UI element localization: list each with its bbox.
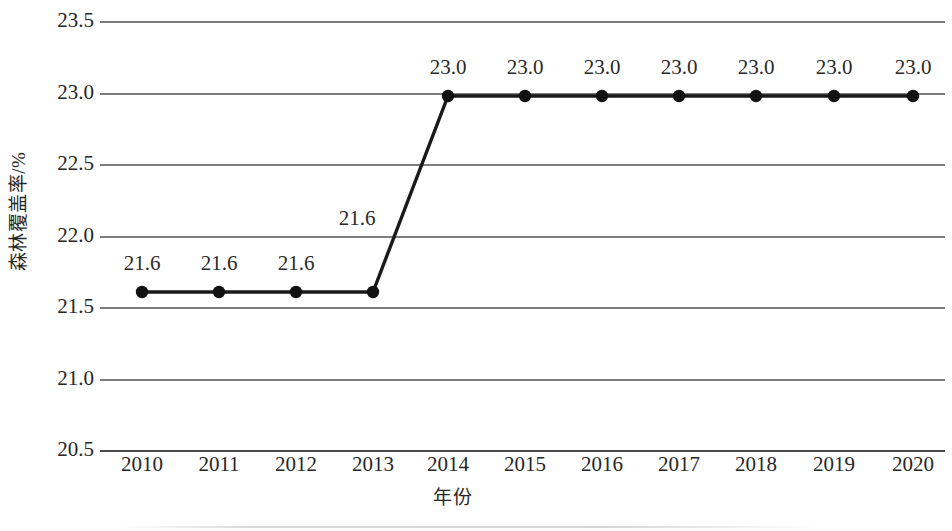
x-tick-label: 2018 bbox=[718, 454, 794, 475]
x-tick-label: 2017 bbox=[641, 454, 717, 475]
x-tick-label: 2020 bbox=[875, 454, 951, 475]
data-point-label: 23.0 bbox=[567, 57, 637, 78]
data-point-label: 21.6 bbox=[184, 253, 254, 274]
data-point bbox=[213, 286, 225, 298]
data-point bbox=[136, 286, 148, 298]
x-tick-label: 2019 bbox=[796, 454, 872, 475]
x-tick-label: 2014 bbox=[410, 454, 486, 475]
x-tick-label: 2010 bbox=[104, 454, 180, 475]
data-point-label: 23.0 bbox=[413, 57, 483, 78]
x-tick-label: 2016 bbox=[564, 454, 640, 475]
series-line bbox=[142, 96, 913, 292]
data-point bbox=[828, 90, 840, 102]
data-point bbox=[290, 286, 302, 298]
x-tick-label: 2011 bbox=[181, 454, 257, 475]
scan-artifact-line bbox=[120, 526, 820, 528]
x-tick-label: 2015 bbox=[487, 454, 563, 475]
data-point-label: 23.0 bbox=[721, 57, 791, 78]
data-point bbox=[519, 90, 531, 102]
line-chart: 森林覆盖率/% 23.5 23.0 22.5 22.0 21.5 21.0 20… bbox=[0, 0, 952, 531]
data-point-label: 21.6 bbox=[261, 253, 331, 274]
data-point-label: 21.6 bbox=[322, 208, 392, 229]
data-point-label: 23.0 bbox=[878, 57, 948, 78]
data-point bbox=[596, 90, 608, 102]
data-point bbox=[673, 90, 685, 102]
data-point-label: 23.0 bbox=[490, 57, 560, 78]
data-point-label: 21.6 bbox=[107, 253, 177, 274]
data-point bbox=[907, 90, 919, 102]
x-tick-label: 2012 bbox=[258, 454, 334, 475]
x-tick-label: 2013 bbox=[335, 454, 411, 475]
data-point-label: 23.0 bbox=[799, 57, 869, 78]
data-point-label: 23.0 bbox=[644, 57, 714, 78]
x-axis-title: 年份 bbox=[408, 482, 498, 509]
data-point bbox=[442, 90, 454, 102]
data-point bbox=[750, 90, 762, 102]
data-point bbox=[367, 286, 379, 298]
